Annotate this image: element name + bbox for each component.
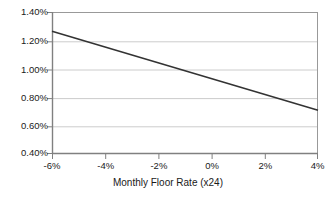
x-tick-label-neg4: -4% (97, 161, 114, 171)
x-tick-label-4: 4% (311, 161, 325, 171)
x-tick-label-neg6: -6% (44, 161, 61, 171)
x-axis-title: Monthly Floor Rate (x24) (0, 177, 336, 189)
x-tick-label-neg2: -2% (150, 161, 167, 171)
x-tick-label-2: 2% (258, 161, 272, 171)
chart-container: 1.40% 1.20% 1.00% 0.80% 0.60% 0.40% -6% … (0, 0, 336, 201)
x-axis-tick-labels: -6% -4% -2% 0% 2% 4% (0, 0, 336, 201)
x-tick-label-0: 0% (205, 161, 219, 171)
